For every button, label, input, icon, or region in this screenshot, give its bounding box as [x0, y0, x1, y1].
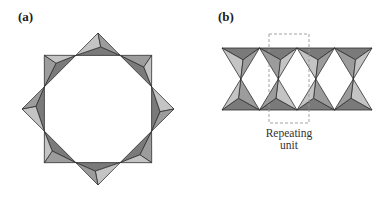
silicate-diagram	[0, 0, 388, 197]
tetrahedra-double-chain	[222, 48, 372, 110]
repeating-unit-caption: Repeating unit	[255, 127, 323, 151]
tetrahedra-ring	[22, 33, 174, 185]
caption-line-2: unit	[255, 139, 323, 151]
caption-line-1: Repeating	[255, 127, 323, 139]
